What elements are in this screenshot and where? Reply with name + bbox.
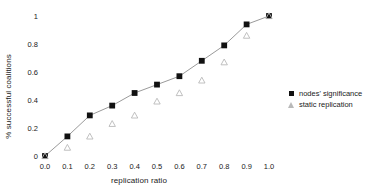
data-point-square — [199, 58, 205, 64]
y-tick-label: 0.8 — [14, 40, 38, 49]
square-marker-icon — [286, 91, 296, 96]
legend-label: static replication — [299, 100, 353, 110]
data-point-square — [87, 113, 93, 119]
data-point-square — [109, 103, 115, 109]
data-point-triangle — [199, 77, 205, 83]
data-point-square — [154, 82, 160, 88]
data-point-square — [132, 90, 138, 96]
data-point-square — [177, 73, 183, 79]
x-tick-label: 1.0 — [257, 162, 281, 171]
data-point-triangle — [64, 144, 70, 150]
y-tick-label: 0 — [14, 152, 38, 161]
data-point-square — [65, 134, 71, 140]
x-tick-label: 0.8 — [212, 162, 236, 171]
data-point-triangle — [87, 133, 93, 139]
legend-item-static-replication: static replication — [286, 99, 362, 110]
x-axis-title: replication ratio — [0, 176, 278, 185]
data-point-triangle — [176, 90, 182, 96]
data-point-triangle — [243, 32, 249, 38]
data-point-square — [221, 43, 227, 49]
x-tick-label: 0.3 — [100, 162, 124, 171]
data-point-square — [244, 22, 250, 28]
y-axis-title: % successful coalitions — [4, 37, 13, 157]
x-tick-label: 0.0 — [33, 162, 57, 171]
chart-legend: nodes' significance static replication — [286, 88, 362, 110]
x-tick-label: 0.5 — [145, 162, 169, 171]
legend-item-nodes-significance: nodes' significance — [286, 88, 362, 99]
y-tick-label: 0.2 — [14, 124, 38, 133]
y-tick-label: 1 — [14, 12, 38, 21]
legend-label: nodes' significance — [299, 89, 362, 99]
y-tick-label: 0.4 — [14, 96, 38, 105]
chart-container: % successful coalitions replication rati… — [0, 0, 386, 193]
data-point-triangle — [154, 98, 160, 104]
x-tick-label: 0.7 — [190, 162, 214, 171]
data-point-triangle — [131, 112, 137, 118]
data-point-triangle — [221, 59, 227, 65]
x-tick-label: 0.1 — [55, 162, 79, 171]
data-point-triangle — [109, 121, 115, 127]
x-tick-label: 0.6 — [167, 162, 191, 171]
x-tick-label: 0.2 — [78, 162, 102, 171]
y-tick-label: 0.6 — [14, 68, 38, 77]
triangle-marker-icon — [286, 102, 296, 108]
x-tick-label: 0.9 — [235, 162, 259, 171]
x-tick-label: 0.4 — [123, 162, 147, 171]
